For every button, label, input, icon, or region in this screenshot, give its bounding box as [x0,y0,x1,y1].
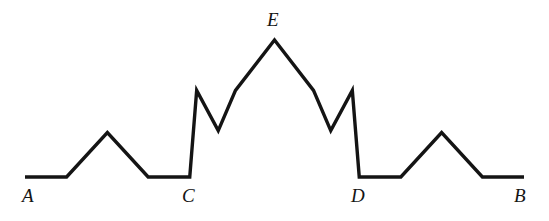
koch-curve-polyline [25,40,524,177]
koch-curve-drawing [0,0,549,221]
vertex-label-a: A [22,186,34,205]
vertex-label-b: B [514,186,526,205]
koch-curve-figure: A C E D B [0,0,549,221]
vertex-label-c: C [182,186,195,205]
vertex-label-d: D [351,186,365,205]
vertex-label-e: E [267,10,279,29]
